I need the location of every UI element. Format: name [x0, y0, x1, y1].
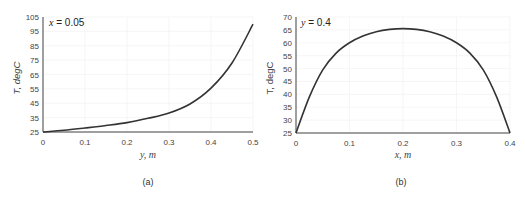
x-axis-label-a: y, m [139, 149, 156, 160]
y-tick-label: 85 [30, 42, 39, 51]
y-tick-label: 55 [283, 52, 292, 61]
x-tick-label: 0 [41, 138, 46, 147]
x-axis-ticks-b: 00.10.20.30.4 [294, 139, 516, 148]
y-tick-label: 45 [283, 77, 292, 86]
chart-panel-a: 2535455565758595105 00.10.20.30.40.5 x =… [11, 13, 259, 187]
y-tick-label: 25 [30, 128, 39, 137]
x-tick-label: 0.1 [344, 139, 356, 148]
y-tick-label: 65 [30, 71, 39, 80]
figure: 2535455565758595105 00.10.20.30.40.5 x =… [0, 0, 525, 198]
y-axis-label-b: T, degC [264, 61, 275, 94]
y-tick-label: 35 [30, 114, 39, 123]
x-tick-label: 0.1 [79, 138, 91, 147]
y-tick-label: 45 [30, 99, 39, 108]
y-tick-label: 55 [30, 85, 39, 94]
y-tick-label: 35 [283, 103, 292, 112]
x-tick-label: 0.5 [247, 138, 259, 147]
y-tick-label: 50 [283, 65, 292, 74]
y-tick-label: 60 [283, 39, 292, 48]
chart-panel-b: 25303540455055606570 00.10.20.30.4 y = 0… [264, 13, 516, 187]
y-tick-label: 40 [283, 90, 292, 99]
x-tick-label: 0.4 [504, 139, 516, 148]
y-tick-label: 25 [283, 129, 292, 138]
x-tick-label: 0.4 [205, 138, 217, 147]
gridlines-a [43, 17, 253, 132]
caption-b: (b) [396, 177, 407, 187]
y-tick-label: 95 [30, 27, 39, 36]
x-tick-label: 0.3 [451, 139, 463, 148]
x-tick-label: 0 [294, 139, 299, 148]
x-tick-label: 0.2 [397, 139, 409, 148]
gridlines-b [296, 17, 510, 133]
y-tick-label: 105 [26, 13, 40, 22]
y-axis-ticks-a: 2535455565758595105 [26, 13, 40, 137]
y-tick-label: 65 [283, 26, 292, 35]
annotation-a: x = 0.05 [48, 17, 85, 28]
x-axis-label-b: x, m [394, 149, 412, 160]
annotation-b: y = 0.4 [300, 17, 331, 28]
y-axis-label-a: T, degC [11, 61, 22, 94]
curve-a [43, 24, 253, 132]
y-tick-label: 30 [283, 116, 292, 125]
x-tick-label: 0.2 [121, 138, 133, 147]
caption-a: (a) [143, 177, 154, 187]
y-axis-ticks-b: 25303540455055606570 [283, 13, 292, 138]
x-tick-label: 0.3 [163, 138, 175, 147]
x-axis-ticks-a: 00.10.20.30.40.5 [41, 138, 259, 147]
y-tick-label: 75 [30, 56, 39, 65]
y-tick-label: 70 [283, 13, 292, 22]
